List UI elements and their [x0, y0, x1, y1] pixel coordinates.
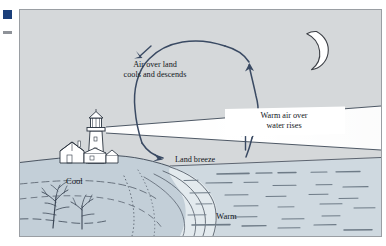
figure-root: Air over land cools and descends Warm ai…: [0, 0, 386, 246]
label-air-over-land: Air over land cools and descends: [103, 60, 207, 79]
label-warm: Warm: [216, 211, 260, 221]
land-breeze-figure: Air over land cools and descends Warm ai…: [19, 9, 382, 237]
label-land-breeze: Land breeze: [175, 155, 251, 165]
label-cool: Cool: [66, 176, 106, 186]
label-warm-air-over-water: Warm air over water rises: [229, 111, 339, 130]
margin-dash-marker: [3, 31, 12, 34]
margin-square-marker: [3, 10, 12, 19]
